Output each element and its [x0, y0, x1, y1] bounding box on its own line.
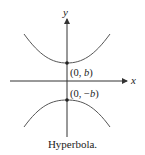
upper-vertex-label: (0, b): [70, 67, 93, 79]
lower-vertex-point: [65, 98, 69, 102]
y-axis-label: y: [62, 6, 68, 18]
upper-vertex-point: [65, 61, 69, 65]
lower-vertex-label: (0, −b): [70, 88, 99, 100]
hyperbola-figure: y x (0, b) (0, −b) Hyperbola.: [0, 0, 145, 155]
diagram-svg: y x (0, b) (0, −b): [0, 0, 145, 155]
x-axis-label: x: [130, 74, 136, 86]
figure-caption: Hyperbola.: [0, 138, 145, 150]
